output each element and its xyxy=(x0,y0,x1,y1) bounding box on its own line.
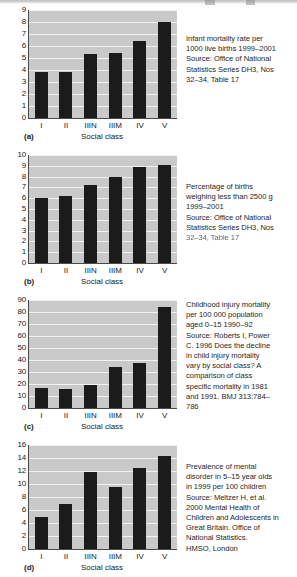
x-tick-label: IIIM xyxy=(103,266,127,275)
x-tick-label: IIIM xyxy=(103,121,127,130)
caption-line: Children and Adolescents in xyxy=(186,513,297,523)
y-tick-label: 7 xyxy=(22,30,26,38)
bar-IV xyxy=(133,363,146,408)
bar-II xyxy=(59,504,72,549)
x-tick-label: V xyxy=(153,266,177,275)
bar-II xyxy=(59,72,72,118)
caption-line: disorder in 5–15 year olds xyxy=(186,472,297,482)
y-tick-label: 12 xyxy=(18,467,27,475)
x-tick-label: IV xyxy=(128,121,152,130)
y-tick-label: 0 xyxy=(22,545,26,553)
y-tick-label: 5 xyxy=(22,205,26,213)
y-tick-label: 3 xyxy=(22,227,26,235)
bar-IV xyxy=(133,167,146,263)
x-tick-label: IIIM xyxy=(103,552,127,561)
y-tick-label: 20 xyxy=(18,380,27,388)
x-tick-label: II xyxy=(54,121,78,130)
caption-line: Statistics Series DH3, Nos xyxy=(186,223,297,233)
bar-I xyxy=(35,388,48,408)
y-tick-label: 0 xyxy=(22,259,26,267)
x-axis: IIIIIINIIIMIVV xyxy=(29,266,177,275)
caption-line: Percentage of births xyxy=(186,182,297,192)
y-tick-label: 0 xyxy=(22,404,26,412)
bar-I xyxy=(35,72,48,118)
caption-line: per 100 000 population xyxy=(186,310,297,320)
bar-V xyxy=(158,456,171,549)
caption-line: HMSO, London xyxy=(186,544,297,554)
y-tick-label: 2 xyxy=(22,90,26,98)
caption-line: National Statistics. xyxy=(186,533,297,543)
bar-II xyxy=(59,196,72,264)
bar-II xyxy=(59,389,72,408)
caption-line: 2000 Mental Health of xyxy=(186,503,297,513)
caption-line: Source: Office of National xyxy=(186,213,297,223)
x-tick-label: I xyxy=(29,266,53,275)
x-axis-label: Social class xyxy=(28,132,176,141)
x-tick-label: IIIN xyxy=(79,121,103,130)
y-tick-label: 90 xyxy=(18,296,27,304)
panel-letter: (d) xyxy=(24,563,34,572)
bar-IIIN xyxy=(84,185,97,263)
y-tick-label: 0 xyxy=(22,114,26,122)
y-axis: 0246810121416 xyxy=(6,445,26,549)
bar-V xyxy=(158,165,171,263)
bar-I xyxy=(35,517,48,550)
y-tick-label: 8 xyxy=(22,18,26,26)
caption-line: comparison of class xyxy=(186,371,297,381)
y-tick-label: 80 xyxy=(18,308,27,316)
bar-IIIM xyxy=(109,487,122,549)
caption-line: and 1991. BMJ 313:784– xyxy=(186,392,297,402)
x-tick-label: V xyxy=(153,552,177,561)
y-tick-label: 5 xyxy=(22,54,26,62)
y-tick-label: 7 xyxy=(22,183,26,191)
y-axis: 0102030405060708090 xyxy=(6,300,26,408)
y-tick-label: 1 xyxy=(22,102,26,110)
caption-line: 786 xyxy=(186,402,297,412)
y-tick-label: 9 xyxy=(22,162,26,170)
y-tick-label: 4 xyxy=(22,66,26,74)
y-tick-label: 3 xyxy=(22,78,26,86)
caption-line: Statistics Series DH3, Nos xyxy=(186,65,297,75)
x-axis-label: Social class xyxy=(28,563,176,572)
panel-letter: (a) xyxy=(24,132,34,141)
caption-line: aged 0–15 1990–92 xyxy=(186,320,297,330)
caption-line: Great Britain. Office of xyxy=(186,523,297,533)
x-tick-label: II xyxy=(54,411,78,420)
y-tick-label: 8 xyxy=(22,173,26,181)
y-tick-label: 8 xyxy=(22,493,26,501)
x-tick-label: II xyxy=(54,552,78,561)
panel-letter: (c) xyxy=(24,422,34,431)
caption-line: specific mortality in 1981 xyxy=(186,382,297,392)
x-tick-label: I xyxy=(29,411,53,420)
y-tick-label: 6 xyxy=(22,42,26,50)
y-tick-label: 30 xyxy=(18,368,27,376)
x-tick-label: IIIN xyxy=(79,411,103,420)
y-tick-label: 4 xyxy=(22,216,26,224)
y-tick-label: 10 xyxy=(18,480,27,488)
y-tick-label: 70 xyxy=(18,320,27,328)
y-tick-label: 1 xyxy=(22,248,26,256)
x-tick-label: II xyxy=(54,266,78,275)
y-tick-label: 50 xyxy=(18,344,27,352)
caption-line: in child injury mortality xyxy=(186,351,297,361)
plot-area xyxy=(28,300,177,409)
caption-line: in 1999 per 100 children xyxy=(186,482,297,492)
bar-IV xyxy=(133,41,146,118)
panel-caption: Infant mortality rate per1000 live birth… xyxy=(186,34,297,85)
scan-header-ghost-left xyxy=(205,0,215,5)
bar-IIIN xyxy=(84,54,97,118)
y-tick-label: 2 xyxy=(22,237,26,245)
x-tick-label: IV xyxy=(128,411,152,420)
bar-IIIM xyxy=(109,53,122,118)
y-tick-label: 9 xyxy=(22,6,26,14)
caption-line: Childhood injury mortality xyxy=(186,300,297,310)
y-tick-label: 16 xyxy=(18,441,27,449)
x-tick-label: I xyxy=(29,121,53,130)
x-axis: IIIIIINIIIMIVV xyxy=(29,411,177,420)
y-tick-label: 60 xyxy=(18,332,27,340)
x-axis-label: Social class xyxy=(28,422,176,431)
plot-area xyxy=(28,10,177,119)
plot-area xyxy=(28,155,177,264)
y-axis: 0123456789 xyxy=(6,10,26,118)
y-tick-label: 40 xyxy=(18,356,27,364)
